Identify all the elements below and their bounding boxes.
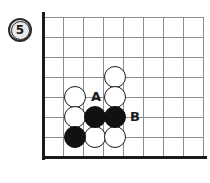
diagram-root: 5 AB: [0, 0, 210, 183]
grid-line-vertical: [143, 17, 144, 157]
board-marker-label-b: B: [128, 109, 142, 123]
stone-white[interactable]: [104, 66, 126, 88]
stone-white[interactable]: [64, 86, 86, 108]
stone-white[interactable]: [104, 126, 126, 148]
stone-white[interactable]: [84, 126, 106, 148]
stone-black[interactable]: [84, 106, 106, 128]
stone-black[interactable]: [104, 106, 126, 128]
figure-number-label: 5: [16, 24, 24, 36]
stone-white[interactable]: [104, 86, 126, 108]
go-board[interactable]: AB: [0, 0, 210, 183]
grid-line-vertical: [203, 17, 204, 157]
grid-line-vertical: [183, 17, 184, 157]
grid-line-vertical: [163, 17, 164, 157]
board-bottom-edge: [42, 156, 207, 159]
board-left-edge: [42, 12, 45, 160]
stone-white[interactable]: [64, 106, 86, 128]
stone-black[interactable]: [64, 126, 86, 148]
board-marker-label-a: A: [89, 89, 103, 103]
